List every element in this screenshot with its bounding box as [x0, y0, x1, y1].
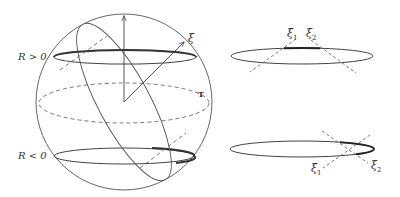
label-xi: ξ: [188, 32, 195, 45]
right-bottom-ellipse-diagram: ξ1 ξ2: [230, 131, 382, 177]
figure-canvas: R > 0 R < 0 ξ T ξ1 ξ2 ξ1 ξ2: [0, 0, 400, 197]
label-r-positive: R > 0: [17, 51, 47, 62]
xi1-dashed-line: [250, 39, 296, 72]
ellipse-top: [231, 48, 373, 64]
xi2-dashed-line: [311, 40, 356, 73]
xi2-dashed-line-bottom: [322, 131, 368, 163]
label-t: T: [198, 89, 204, 99]
label-r-negative: R < 0: [17, 150, 47, 161]
label-xi1-top: ξ1: [287, 27, 298, 42]
label-xi2-bottom: ξ2: [371, 159, 382, 174]
xi1-dashed-line-bottom: [323, 135, 370, 168]
label-xi1-bottom: ξ1: [311, 162, 322, 177]
label-xi2-top: ξ2: [306, 27, 317, 42]
right-top-ellipse-diagram: ξ1 ξ2: [231, 27, 373, 73]
latitude-circle-r-negative-highlight: [152, 148, 195, 163]
sphere-diagram: R > 0 R < 0 ξ T: [17, 12, 212, 192]
